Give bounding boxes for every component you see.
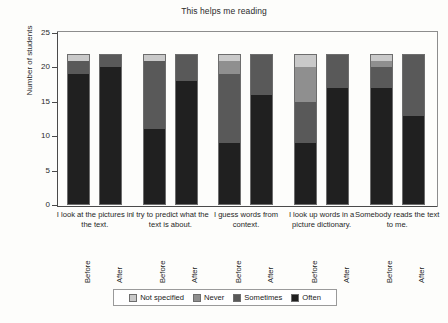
- chart-title: This helps me reading: [0, 6, 448, 16]
- subgroup-label-before: Before: [385, 261, 394, 283]
- bar-segment-not-specified: [218, 54, 241, 61]
- bar-segment-not-specified: [294, 54, 317, 68]
- plot-area: [57, 33, 435, 205]
- bar-segment-never: [370, 61, 393, 68]
- bar-group: [57, 33, 133, 205]
- bar-segment-often: [326, 88, 349, 205]
- bar-segment-often: [250, 95, 273, 205]
- bar-segment-sometimes: [67, 61, 90, 75]
- bar-group: [208, 33, 284, 205]
- bar-segment-sometimes: [99, 54, 122, 68]
- bar-segment-often: [294, 143, 317, 205]
- legend-item[interactable]: Often: [291, 293, 321, 302]
- subgroup-label-before: Before: [234, 261, 243, 283]
- legend-swatch-icon: [233, 294, 241, 302]
- bar-segment-sometimes: [250, 54, 273, 95]
- y-tick-mark: [52, 205, 57, 206]
- bar-segment-often: [402, 116, 425, 205]
- plot-frame-top: [57, 31, 438, 32]
- legend-swatch-icon: [193, 294, 201, 302]
- bar-segment-never: [294, 67, 317, 101]
- bar-segment-not-specified: [67, 54, 90, 61]
- legend-item[interactable]: Never: [193, 293, 224, 302]
- subgroup-label-after: After: [115, 267, 124, 283]
- bar-group: [284, 33, 360, 205]
- legend-swatch-icon: [291, 294, 299, 302]
- legend-label: Often: [302, 293, 321, 302]
- legend-label: Not specified: [140, 293, 184, 302]
- subgroup-label-before: Before: [158, 261, 167, 283]
- legend-item[interactable]: Not specified: [129, 293, 184, 302]
- subgroup-label-after: After: [266, 267, 275, 283]
- y-tick-label: 20: [26, 62, 50, 71]
- y-tick-label: 15: [26, 97, 50, 106]
- legend-label: Never: [204, 293, 224, 302]
- subgroup-label-before: Before: [83, 261, 92, 283]
- bar-segment-sometimes: [175, 54, 198, 82]
- bar-segment-sometimes: [218, 74, 241, 143]
- bar-segment-often: [218, 143, 241, 205]
- bar-segment-often: [370, 88, 393, 205]
- legend-label: Sometimes: [244, 293, 282, 302]
- legend-item[interactable]: Sometimes: [233, 293, 282, 302]
- chart-legend: Not specifiedNeverSometimesOften: [113, 289, 337, 306]
- plot-frame-right: [437, 31, 438, 207]
- bar-segment-not-specified: [370, 54, 393, 61]
- y-tick-label: 0: [26, 200, 50, 209]
- bar-segment-often: [67, 74, 90, 205]
- bar-segment-sometimes: [294, 102, 317, 143]
- bar-group: [359, 33, 435, 205]
- subgroup-label-after: After: [190, 267, 199, 283]
- bar-segment-sometimes: [326, 54, 349, 88]
- category-label: Somebody reads the text to me.: [353, 210, 441, 229]
- legend-swatch-icon: [129, 294, 137, 302]
- bar-segment-sometimes: [402, 54, 425, 116]
- chart-figure: This helps me reading Number of students…: [0, 0, 448, 323]
- y-tick-label: 10: [26, 131, 50, 140]
- subgroup-label-after: After: [342, 267, 351, 283]
- bar-segment-often: [99, 67, 122, 205]
- subgroup-label-after: After: [417, 267, 426, 283]
- x-axis-line: [57, 206, 438, 207]
- y-tick-label: 5: [26, 166, 50, 175]
- bar-segment-sometimes: [143, 61, 166, 130]
- bar-segment-not-specified: [143, 54, 166, 61]
- y-tick-label: 25: [26, 28, 50, 37]
- bar-segment-often: [175, 81, 198, 205]
- subgroup-label-before: Before: [310, 261, 319, 283]
- bar-segment-sometimes: [370, 67, 393, 88]
- bar-segment-often: [143, 129, 166, 205]
- bar-segment-never: [218, 61, 241, 75]
- bar-group: [133, 33, 209, 205]
